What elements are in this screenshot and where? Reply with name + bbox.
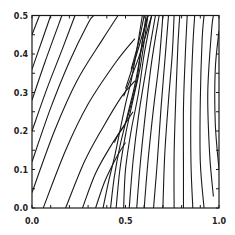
right-characteristic-curve <box>103 16 142 209</box>
y-tick-label: 0.2 <box>14 127 28 136</box>
right-characteristic-curve <box>144 16 163 209</box>
right-characteristic-curve <box>208 16 214 197</box>
left-characteristic-curve <box>32 16 94 162</box>
left-characteristic-curve <box>82 112 132 208</box>
x-tick-label: 0.0 <box>25 217 40 226</box>
right-characteristic-curve <box>163 16 174 209</box>
left-characteristic-curve <box>32 16 39 35</box>
y-tick-label: 0.5 <box>14 12 29 21</box>
right-characteristic-curve <box>191 16 195 209</box>
x-tick-label: 1.0 <box>212 217 227 226</box>
right-characteristic-curve <box>174 16 180 209</box>
right-characteristic-curve <box>215 31 219 170</box>
curve-group <box>32 16 219 209</box>
left-characteristic-curve <box>32 16 118 193</box>
x-tick-label: 0.5 <box>118 217 133 226</box>
right-characteristic-curve <box>111 16 147 209</box>
y-tick-label: 0.1 <box>14 166 29 175</box>
left-characteristic-curve <box>32 16 51 70</box>
characteristics-chart: 0.00.51.00.00.10.20.30.40.5 <box>0 0 235 235</box>
right-characteristic-curve <box>183 16 187 209</box>
left-characteristic-curve <box>32 16 75 132</box>
y-tick-label: 0.4 <box>14 50 29 59</box>
fan-curve <box>124 16 152 97</box>
axis-tick-labels: 0.00.51.00.00.10.20.30.40.5 <box>14 12 227 227</box>
y-tick-label: 0.0 <box>14 204 29 213</box>
y-tick-label: 0.3 <box>14 89 28 98</box>
right-characteristic-curve <box>200 16 204 209</box>
